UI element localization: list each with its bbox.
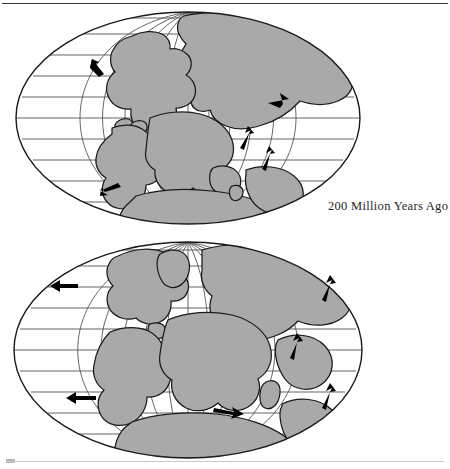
figure-sheet: 200 Million Years Ago [0, 0, 450, 469]
map-panel-200ma: 200 Million Years Ago [0, 0, 450, 232]
map-panel-65ma: 65 Million Years Ago [0, 236, 450, 469]
globe-map-65ma [0, 236, 450, 469]
caption-200ma: 200 Million Years Ago [328, 199, 448, 214]
globe-map-200ma [0, 0, 450, 232]
bottom-divider-rule [6, 461, 444, 462]
landmass-greenland [157, 250, 189, 287]
landmass-group-65ma [93, 244, 352, 458]
landmass-africa [160, 312, 272, 410]
landmass-madagascar [229, 185, 243, 200]
